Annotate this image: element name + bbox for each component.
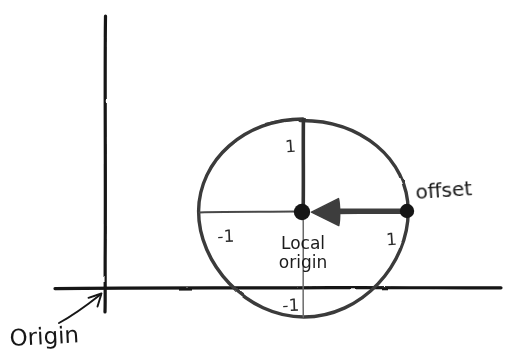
offset-arrow-head: [312, 199, 340, 226]
origin-arrow-curve: [59, 295, 101, 324]
tick-label-top: 1: [284, 136, 296, 157]
tick-label-bottom: -1: [282, 295, 300, 316]
origin-callout-arrow: [59, 294, 102, 324]
tick-label-left: -1: [217, 226, 235, 247]
local-axis-left: [200, 212, 297, 213]
sketch-diagram: Origin offset Local origin 1 1 -1 -1: [0, 0, 509, 356]
tick-label-right: 1: [385, 229, 397, 250]
label-origin: Origin: [9, 321, 80, 351]
local-origin-dot: [294, 204, 310, 220]
global-vertical-axis: [105, 16, 106, 312]
label-local-origin-line1: Local: [281, 233, 325, 253]
offset-arrow: [312, 199, 407, 226]
diagram-canvas: Origin offset Local origin 1 1 -1 -1: [0, 0, 509, 356]
label-local-origin-line2: origin: [279, 252, 327, 272]
label-offset: offset: [415, 176, 473, 204]
global-horizontal-axis: [55, 288, 501, 289]
offset-dot: [400, 204, 414, 218]
